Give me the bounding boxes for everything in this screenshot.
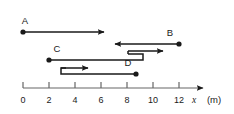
vector-d-start-dot (133, 71, 138, 76)
vector-d-path (61, 68, 136, 74)
vector-c-start-dot (46, 57, 51, 62)
axis-tick-label-6: 6 (98, 95, 103, 105)
axis-tick-label-0: 0 (20, 95, 25, 105)
vector-c-label: C (54, 43, 61, 54)
vector-a-label: A (22, 15, 29, 26)
diagram-canvas: A B C D (0, 0, 234, 114)
axis-tick-label-4: 4 (72, 95, 77, 105)
axis-tick-label-12: 12 (174, 95, 184, 105)
x-axis: 0 2 4 6 8 10 12 x (m) (20, 82, 221, 105)
axis-tick-label-2: 2 (46, 95, 51, 105)
vector-b: B (115, 27, 182, 47)
displacement-vector-diagram: A B C D (0, 0, 234, 114)
vector-b-start-dot (176, 41, 181, 46)
axis-tick-label-10: 10 (148, 95, 158, 105)
axis-tick-label-8: 8 (124, 95, 129, 105)
axis-title-symbol: x (191, 95, 197, 105)
vector-a-start-dot (20, 29, 25, 34)
vector-b-label: B (167, 27, 173, 38)
vector-a: A (20, 15, 104, 35)
axis-title-unit: (m) (207, 94, 221, 105)
vector-d-label: D (125, 57, 132, 68)
vector-c: C (46, 43, 163, 63)
